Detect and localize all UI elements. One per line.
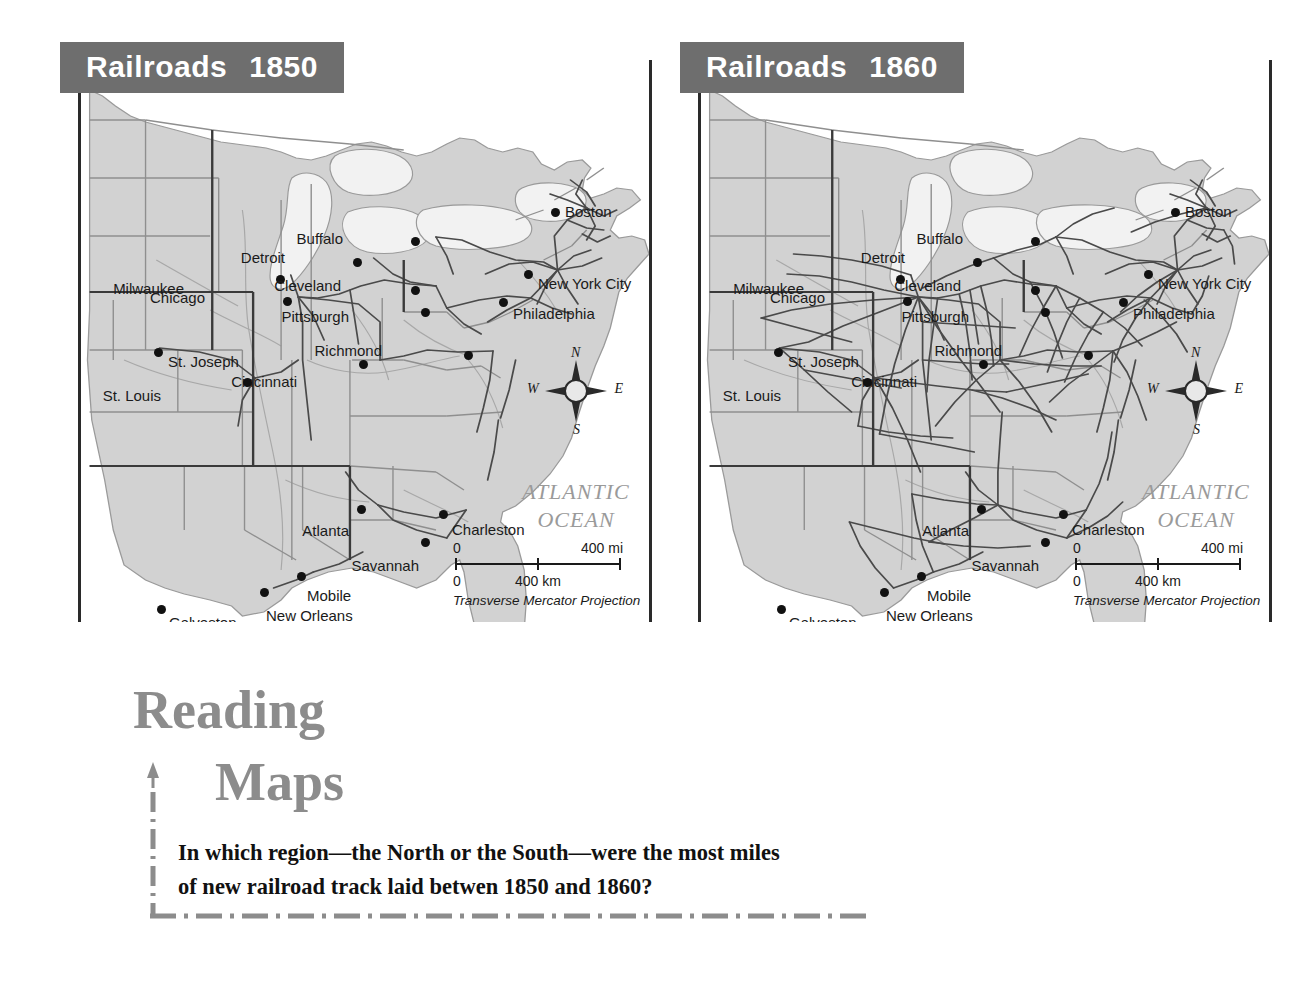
city-label: Philadelphia xyxy=(513,306,595,321)
city-label: Charleston xyxy=(1072,522,1145,537)
city-label: Boston xyxy=(565,204,612,219)
city-dot-icon xyxy=(880,588,889,597)
city-label: Richmond xyxy=(314,343,382,358)
compass-label-n: N xyxy=(1191,345,1200,361)
city-dot-icon xyxy=(359,360,368,369)
map-frame: ATLANTICOCEANNESW0400 mi0400 kmTransvers… xyxy=(698,60,1272,622)
scale-bar: 0400 mi0400 kmTransverse Mercator Projec… xyxy=(453,540,623,608)
reading-maps-question: In which region—the North or the South—w… xyxy=(178,836,878,904)
city-dot-icon xyxy=(1119,298,1128,307)
scale-mi-zero: 0 xyxy=(453,540,461,556)
city-label: Detroit xyxy=(241,250,285,265)
city-label: Cincinnati xyxy=(851,374,917,389)
city-label: St. Louis xyxy=(723,388,781,403)
map-geography xyxy=(81,60,649,622)
map-panel-railroads-1850: ATLANTICOCEANNESW0400 mi0400 kmTransvers… xyxy=(78,60,646,622)
scale-bar-line xyxy=(453,558,623,571)
map-panel-railroads-1860: ATLANTICOCEANNESW0400 mi0400 kmTransvers… xyxy=(698,60,1266,622)
city-label: Philadelphia xyxy=(1133,306,1215,321)
city-label: Mobile xyxy=(307,588,351,603)
scale-bar-line xyxy=(1073,558,1243,571)
city-label: Chicago xyxy=(150,290,205,305)
city-dot-icon xyxy=(903,297,912,306)
city-dot-icon xyxy=(283,297,292,306)
city-dot-icon xyxy=(260,588,269,597)
city-dot-icon xyxy=(863,378,872,387)
city-dot-icon xyxy=(499,298,508,307)
scale-miles-row: 0400 mi xyxy=(453,540,623,557)
callout-dash-dot-rule xyxy=(150,913,867,919)
ocean-label: ATLANTICOCEAN xyxy=(1131,478,1261,533)
map-title-word: Railroads xyxy=(86,50,227,83)
city-dot-icon xyxy=(297,572,306,581)
city-label: Cincinnati xyxy=(231,374,297,389)
compass-label-s: S xyxy=(573,422,580,438)
city-label: Cleveland xyxy=(274,278,341,293)
city-dot-icon xyxy=(1171,208,1180,217)
map-geography xyxy=(701,60,1269,622)
map-title-banner: Railroads1850 xyxy=(60,42,344,93)
city-label: New Orleans xyxy=(266,608,353,622)
city-label: New York City xyxy=(538,276,631,291)
city-label: Boston xyxy=(1185,204,1232,219)
city-dot-icon xyxy=(777,605,786,614)
city-label: Mobile xyxy=(927,588,971,603)
city-label: Pittsburgh xyxy=(901,309,969,324)
compass-rose: NESW xyxy=(1153,348,1239,434)
question-line-2: of new railroad track laid betwen 1850 a… xyxy=(178,870,878,904)
ocean-label-line1: ATLANTIC xyxy=(511,478,641,506)
reading-maps-heading-line2: Maps xyxy=(215,755,344,809)
ocean-label: ATLANTICOCEAN xyxy=(511,478,641,533)
city-dot-icon xyxy=(411,286,420,295)
textbook-page: ATLANTICOCEANNESW0400 mi0400 kmTransvers… xyxy=(0,0,1289,981)
city-dot-icon xyxy=(977,505,986,514)
city-dot-icon xyxy=(1041,538,1050,547)
city-dot-icon xyxy=(157,605,166,614)
city-label: Galveston xyxy=(789,615,857,622)
scale-mi-max: 400 mi xyxy=(581,540,623,556)
compass-label-w: W xyxy=(1147,381,1159,397)
city-label: Buffalo xyxy=(917,231,963,246)
city-label: St. Joseph xyxy=(168,354,239,369)
city-label: Detroit xyxy=(861,250,905,265)
map-title-year: 1850 xyxy=(249,50,318,83)
city-dot-icon xyxy=(243,378,252,387)
scale-km-row: 0400 km xyxy=(1073,573,1243,590)
city-dot-icon xyxy=(464,351,473,360)
city-dot-icon xyxy=(353,258,362,267)
scale-km-mid: 400 km xyxy=(515,573,561,589)
city-dot-icon xyxy=(774,348,783,357)
scale-mi-max: 400 mi xyxy=(1201,540,1243,556)
question-line-1: In which region—the North or the South—w… xyxy=(178,836,878,870)
map-frame: ATLANTICOCEANNESW0400 mi0400 kmTransvers… xyxy=(78,60,652,622)
city-dot-icon xyxy=(551,208,560,217)
scale-km-zero: 0 xyxy=(1073,573,1081,589)
ocean-label-line1: ATLANTIC xyxy=(1131,478,1261,506)
city-dot-icon xyxy=(1031,237,1040,246)
city-label: Savannah xyxy=(351,558,419,573)
city-label: Atlanta xyxy=(302,523,349,538)
city-dot-icon xyxy=(1041,308,1050,317)
city-label: Buffalo xyxy=(297,231,343,246)
city-label: St. Louis xyxy=(103,388,161,403)
city-dot-icon xyxy=(421,538,430,547)
city-dot-icon xyxy=(1084,351,1093,360)
map-title-banner: Railroads1860 xyxy=(680,42,964,93)
callout-up-arrow-icon xyxy=(146,760,160,915)
city-dot-icon xyxy=(1144,270,1153,279)
map-projection-label: Transverse Mercator Projection xyxy=(453,593,623,608)
city-dot-icon xyxy=(973,258,982,267)
compass-label-e: E xyxy=(1234,381,1243,397)
city-label: New York City xyxy=(1158,276,1251,291)
city-dot-icon xyxy=(524,270,533,279)
compass-rose: NESW xyxy=(533,348,619,434)
scale-km-zero: 0 xyxy=(453,573,461,589)
ocean-label-line2: OCEAN xyxy=(1131,506,1261,534)
compass-label-s: S xyxy=(1193,422,1200,438)
city-dot-icon xyxy=(411,237,420,246)
map-projection-label: Transverse Mercator Projection xyxy=(1073,593,1243,608)
city-label: Richmond xyxy=(934,343,1002,358)
scale-miles-row: 0400 mi xyxy=(1073,540,1243,557)
ocean-label-line2: OCEAN xyxy=(511,506,641,534)
city-label: Charleston xyxy=(452,522,525,537)
